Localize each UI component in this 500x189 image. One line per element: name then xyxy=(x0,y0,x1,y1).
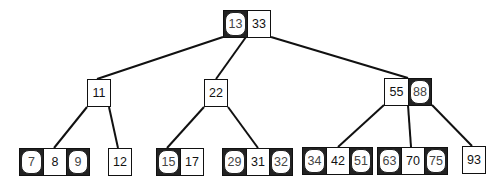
tree-edge xyxy=(109,107,118,148)
tree-node-l1517: 1517 xyxy=(156,148,204,176)
red-key: 34 xyxy=(303,148,326,174)
red-key: 9 xyxy=(66,149,89,175)
tree-node-root: 1333 xyxy=(223,10,271,38)
tree-node-l637075: 637075 xyxy=(377,147,448,175)
red-key: 13 xyxy=(224,11,247,37)
red-key: 7 xyxy=(20,149,43,175)
tree-edge xyxy=(167,107,204,148)
red-key: 88 xyxy=(408,79,431,105)
red-key: 75 xyxy=(424,148,447,174)
tree-node-l789: 789 xyxy=(19,148,90,176)
black-key: 70 xyxy=(401,148,424,174)
black-key: 12 xyxy=(109,149,131,175)
black-key: 42 xyxy=(326,148,349,174)
black-key: 33 xyxy=(247,11,270,37)
tree-node-l12: 12 xyxy=(108,148,132,176)
black-key: 11 xyxy=(88,80,110,106)
tree-node-l93: 93 xyxy=(462,146,486,174)
tree-edge xyxy=(216,37,246,79)
red-key: 51 xyxy=(349,148,372,174)
tree-edge xyxy=(408,105,411,147)
red-key: 32 xyxy=(269,149,292,175)
red-key: 29 xyxy=(223,149,246,175)
black-key: 17 xyxy=(180,149,203,175)
tree-node-n11: 11 xyxy=(87,79,111,107)
black-key: 93 xyxy=(463,147,485,173)
tree-node-n55: 5588 xyxy=(384,78,432,106)
black-key: 55 xyxy=(385,79,408,105)
tree-edge xyxy=(271,37,408,78)
red-key: 15 xyxy=(157,149,180,175)
tree-edge xyxy=(432,105,472,146)
tree-node-n22: 22 xyxy=(204,79,228,107)
tree-edge xyxy=(338,105,384,147)
tree-node-l344251: 344251 xyxy=(302,147,373,175)
tree-edge xyxy=(228,107,258,148)
tree-node-l293132: 293132 xyxy=(222,148,293,176)
tree-edge xyxy=(97,37,223,79)
black-key: 22 xyxy=(205,80,227,106)
black-key: 31 xyxy=(246,149,269,175)
black-key: 8 xyxy=(43,149,66,175)
tree-edge xyxy=(54,107,87,148)
red-key: 63 xyxy=(378,148,401,174)
